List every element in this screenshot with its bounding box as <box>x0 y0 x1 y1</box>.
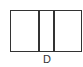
divider-line-2 <box>53 11 55 51</box>
divider-line-1 <box>38 11 40 51</box>
diagram-label: D <box>40 53 54 65</box>
divided-rectangle <box>10 10 82 52</box>
